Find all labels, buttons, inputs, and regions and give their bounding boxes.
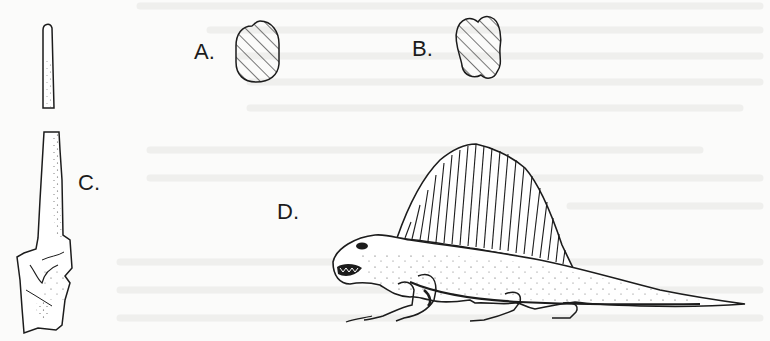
cross-section-b-icon [456, 17, 501, 79]
eye-icon [356, 243, 368, 250]
cross-section-a-icon [236, 21, 279, 82]
dimetrodon-illustration-icon [333, 144, 745, 322]
bone-c-icon [17, 132, 72, 333]
figure-drawings [0, 0, 770, 341]
spine-fragment-top-icon [43, 24, 54, 108]
figure-plate: A. B. C. D. [0, 0, 770, 341]
